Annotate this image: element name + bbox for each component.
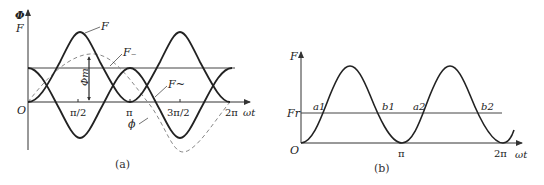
b-caption: (b): [374, 162, 390, 175]
b-origin-label: O: [290, 144, 299, 157]
a-origin-label: O: [17, 104, 26, 117]
a-caption: (a): [115, 158, 130, 171]
a-label-f-dc: F₋: [122, 46, 137, 59]
a-tick-pi: π: [126, 107, 133, 118]
panel-a: Φm Φ F F F₋ F~ ϕ O π/2 π 3π/2 2π ωt (a): [15, 9, 256, 171]
a-x-label: ωt: [243, 107, 256, 118]
a-tick-3pi-half: 3π/2: [167, 107, 190, 118]
a-tick-2pi: 2π: [225, 107, 238, 118]
a-flux-amplitude-label: Φm: [79, 68, 90, 86]
a-label-f-ac: F~: [167, 78, 185, 91]
leader-line: [85, 27, 100, 33]
b-tick-pi: π: [398, 148, 405, 159]
leader-line: [139, 118, 148, 124]
leader-line: [155, 86, 167, 97]
b-point-a1: a1: [313, 101, 325, 112]
leader-line: [110, 54, 122, 66]
b-point-b1: b1: [382, 101, 395, 112]
a-total-mmf-curve: [28, 32, 230, 102]
diagram-canvas: Φm Φ F F F₋ F~ ϕ O π/2 π 3π/2 2π ωt (a) …: [0, 0, 544, 185]
panel-b: F Fr O a1 b1 a2 b2 π 2π ωt (b): [286, 50, 528, 175]
b-tick-2pi: 2π: [494, 148, 507, 159]
a-label-f: F: [100, 20, 109, 33]
b-x-label: ωt: [515, 149, 528, 160]
b-y-label: F: [289, 50, 298, 63]
a-tick-pi-half: π/2: [70, 107, 86, 118]
b-threshold-label: Fr: [286, 107, 301, 120]
a-y-label-phi: Φ: [15, 9, 25, 22]
a-y-label-f: F: [15, 22, 24, 35]
a-label-flux: ϕ: [128, 118, 136, 131]
b-point-b2: b2: [481, 101, 494, 112]
b-point-a2: a2: [413, 101, 425, 112]
